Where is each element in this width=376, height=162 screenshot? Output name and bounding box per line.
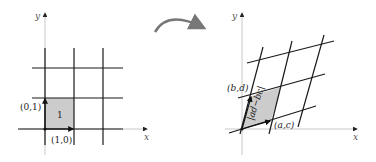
area-one-label: 1 <box>57 110 63 120</box>
left-panel-unit-square: x y (0,1) (1,0) 1 <box>18 11 149 155</box>
right-panel-parallelogram: x y (b,d) (a,c) |ad−bc| <box>225 11 358 155</box>
left-grid <box>18 48 123 145</box>
origin-dot <box>43 127 46 130</box>
right-x-label: x <box>353 132 358 142</box>
e1-label: (1,0) <box>51 135 72 145</box>
right-y-label: y <box>231 11 238 21</box>
curved-arrow-icon <box>155 20 202 32</box>
left-y-label: y <box>34 11 41 21</box>
left-x-label: x <box>144 132 149 142</box>
origin-dot-right <box>240 127 243 130</box>
bd-label: (b,d) <box>227 83 249 93</box>
e2-label: (0,1) <box>20 102 41 112</box>
linear-transformation-diagram: x y (0,1) (1,0) 1 x y (b,d) (a,c) |ad−bc… <box>0 0 376 162</box>
ac-label: (a,c) <box>274 120 295 130</box>
